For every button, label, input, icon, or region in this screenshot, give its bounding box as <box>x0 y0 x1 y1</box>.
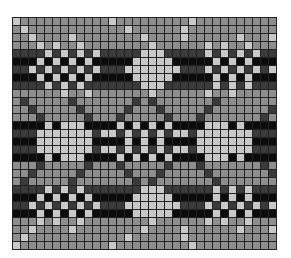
grid-cell <box>181 114 188 121</box>
grid-cell <box>77 130 84 137</box>
grid-cell <box>53 218 60 225</box>
grid-cell <box>237 50 244 57</box>
grid-cell <box>125 18 132 25</box>
grid-cell <box>125 90 132 97</box>
grid-cell <box>117 130 124 137</box>
grid-cell <box>37 170 44 177</box>
grid-cell <box>253 130 260 137</box>
grid-cell <box>189 146 196 153</box>
grid-cell <box>21 50 28 57</box>
grid-cell <box>101 42 108 49</box>
grid-cell <box>141 178 148 185</box>
grid-cell <box>181 66 188 73</box>
grid-cell <box>53 194 60 201</box>
grid-cell <box>101 90 108 97</box>
grid-cell <box>61 66 68 73</box>
grid-cell <box>189 90 196 97</box>
grid-cell <box>181 122 188 129</box>
grid-cell <box>101 226 108 233</box>
grid-cell <box>245 106 252 113</box>
grid-cell <box>221 154 228 161</box>
grid-cell <box>261 138 268 145</box>
grid-cell <box>213 34 220 41</box>
grid-cell <box>253 210 260 217</box>
grid-cell <box>253 26 260 33</box>
grid-cell <box>109 202 116 209</box>
grid-cell <box>141 122 148 129</box>
grid-cell <box>157 202 164 209</box>
grid-cell <box>101 66 108 73</box>
grid-cell <box>117 234 124 241</box>
grid-cell <box>229 234 236 241</box>
grid-cell <box>157 26 164 33</box>
grid-cell <box>157 18 164 25</box>
grid-cell <box>229 98 236 105</box>
grid-cell <box>245 98 252 105</box>
grid-cell <box>117 98 124 105</box>
grid-cell <box>245 154 252 161</box>
grid-cell <box>261 130 268 137</box>
grid-cell <box>149 234 156 241</box>
grid-cell <box>189 50 196 57</box>
grid-cell <box>229 90 236 97</box>
grid-cell <box>221 34 228 41</box>
grid-cell <box>13 114 20 121</box>
grid-cell <box>69 114 76 121</box>
grid-cell <box>197 194 204 201</box>
grid-cell <box>29 42 36 49</box>
grid-cell <box>125 114 132 121</box>
grid-cell <box>125 82 132 89</box>
grid-cell <box>213 154 220 161</box>
grid-cell <box>133 194 140 201</box>
grid-cell <box>229 154 236 161</box>
grid-cell <box>237 186 244 193</box>
grid-cell <box>149 226 156 233</box>
grid-cell <box>109 90 116 97</box>
grid-cell <box>173 42 180 49</box>
grid-cell <box>69 42 76 49</box>
grid-cell <box>69 58 76 65</box>
grid-cell <box>85 26 92 33</box>
grid-cell <box>125 202 132 209</box>
grid-cell <box>157 58 164 65</box>
grid-cell <box>213 146 220 153</box>
grid-cell <box>189 130 196 137</box>
grid-cell <box>77 226 84 233</box>
grid-cell <box>117 50 124 57</box>
grid-cell <box>237 74 244 81</box>
grid-cell <box>77 138 84 145</box>
grid-cell <box>141 66 148 73</box>
grid-cell <box>93 178 100 185</box>
grid-cell <box>205 210 212 217</box>
grid-cell <box>197 162 204 169</box>
grid-cell <box>85 58 92 65</box>
grid-cell <box>141 82 148 89</box>
grid-cell <box>261 122 268 129</box>
grid-cell <box>85 218 92 225</box>
grid-cell <box>245 130 252 137</box>
grid-cell <box>149 138 156 145</box>
grid-cell <box>173 98 180 105</box>
grid-cell <box>101 34 108 41</box>
grid-cell <box>13 74 20 81</box>
grid-cell <box>13 146 20 153</box>
grid-cell <box>141 42 148 49</box>
grid-cell <box>21 90 28 97</box>
grid-cell <box>221 234 228 241</box>
grid-cell <box>165 162 172 169</box>
grid-cell <box>53 50 60 57</box>
grid-cell <box>45 122 52 129</box>
grid-cell <box>117 146 124 153</box>
grid-cell <box>61 18 68 25</box>
grid-cell <box>245 114 252 121</box>
grid-cell <box>245 18 252 25</box>
grid-cell <box>29 122 36 129</box>
grid-cell <box>157 186 164 193</box>
grid-cell <box>165 58 172 65</box>
grid-cell <box>245 90 252 97</box>
grid-cell <box>93 26 100 33</box>
grid-cell <box>189 122 196 129</box>
grid-cell <box>101 50 108 57</box>
grid-cell <box>53 138 60 145</box>
grid-cell <box>261 154 268 161</box>
